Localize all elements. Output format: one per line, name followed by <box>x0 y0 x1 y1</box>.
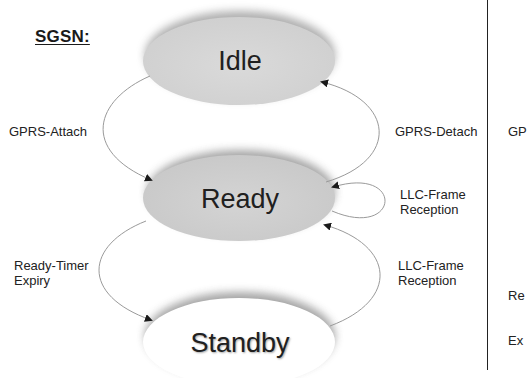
cut-off-label-line: Ex <box>508 333 525 348</box>
edge-label-line: Ready-Timer <box>14 258 89 273</box>
cut-off-label-ready-timer: Re Ex <box>508 258 525 378</box>
cut-off-label-line: Re <box>508 288 525 303</box>
state-label-standby: Standby <box>190 328 289 359</box>
state-label-idle: Idle <box>218 46 262 77</box>
edge-gprs-detach <box>322 82 379 182</box>
edge-llc-frame-reception <box>325 225 380 326</box>
edge-label-gprs-detach: GPRS-Detach <box>395 124 477 139</box>
edge-label-llc-frame-reception: LLC-Frame Reception <box>398 258 464 288</box>
panel-divider <box>487 0 488 370</box>
edge-label-line: Reception <box>398 273 464 288</box>
edge-label-line: Reception <box>400 202 466 217</box>
cut-off-label-gprs: GP <box>508 124 527 139</box>
edge-label-llc-self-loop: LLC-Frame Reception <box>400 187 466 217</box>
edge-label-line: LLC-Frame <box>398 258 464 273</box>
diagram-title: SGSN: <box>35 27 90 47</box>
edge-label-ready-timer-expiry: Ready-Timer Expiry <box>14 258 89 288</box>
state-label-ready: Ready <box>201 184 279 215</box>
edge-label-line: Expiry <box>14 273 89 288</box>
edge-ready-timer-expiry <box>99 221 151 320</box>
edge-llc-self-loop <box>332 183 385 218</box>
edge-label-gprs-attach: GPRS-Attach <box>9 124 87 139</box>
edge-gprs-attach <box>103 76 151 180</box>
edge-label-line: LLC-Frame <box>400 187 466 202</box>
